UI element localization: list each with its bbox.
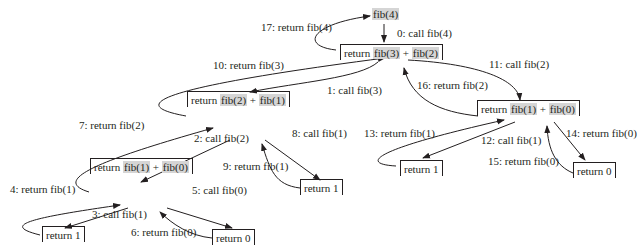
node-fib2-leaf1: return 1 [42,226,85,242]
node-left-call: fib(1) [123,161,150,173]
node-left-call: fib(1) [510,103,537,115]
root-call: fib(4) [372,8,399,20]
node-left-call: fib(3) [373,47,400,59]
node-fib3-leaf: return 1 [300,179,343,195]
node-prefix: return [94,161,123,173]
step-label-11: 11: call fib(2) [489,58,549,70]
node-prefix: return [344,47,373,59]
step-label-16: 16: return fib(2) [417,79,488,91]
step-label-10: 10: return fib(3) [213,59,284,71]
node-prefix: return [191,94,220,106]
node-right-call: fib(2) [412,47,439,59]
node-prefix: return [481,103,510,115]
node-op: + [247,94,259,106]
leaf-text: return 1 [46,229,81,241]
step-label-9: 9: return fib(1) [223,160,288,172]
step-label-8: 8: call fib(1) [292,127,347,139]
step-label-2: 2: call fib(2) [194,132,249,144]
node-r2-leaf1: return 1 [400,160,443,176]
step-label-3: 3: call fib(1) [92,208,147,220]
node-right-call: fib(1) [259,94,286,106]
node-op: + [150,161,162,173]
node-root: fib(4) [370,8,401,21]
step-label-15: 15: return fib(0) [488,155,559,167]
step-label-7: 7: return fib(2) [79,119,144,131]
step-label-12: 12: call fib(1) [481,134,541,146]
node-op: + [400,47,412,59]
node-fib2-left: return fib(1) + fib(0) [90,158,193,174]
node-fib3: return fib(2) + fib(1) [187,91,290,107]
node-r2-leaf0: return 0 [573,162,616,178]
step-label-17: 17: return fib(4) [261,21,332,33]
node-right-call: fib(0) [549,103,576,115]
fib-recursion-diagram: fib(4) return fib(3) + fib(2) return fib… [0,0,637,251]
leaf-text: return 1 [304,182,339,194]
step-label-4: 4: return fib(1) [10,183,75,195]
step-label-6: 6: return fib(0) [131,226,196,238]
step-label-0: 0: call fib(4) [397,27,452,39]
node-fib2-leaf0: return 0 [212,229,255,245]
node-fib2-right: return fib(1) + fib(0) [477,100,580,116]
node-op: + [537,103,549,115]
leaf-text: return 1 [404,163,439,175]
node-right-call: fib(0) [162,161,189,173]
leaf-text: return 0 [216,232,251,244]
arrow-step-5 [167,208,232,228]
step-label-5: 5: call fib(0) [192,184,247,196]
arrow-step-16 [404,68,478,116]
step-label-1: 1: call fib(3) [327,84,382,96]
node-left-call: fib(2) [220,94,247,106]
leaf-text: return 0 [577,165,612,177]
node-fib4: return fib(3) + fib(2) [340,44,443,60]
step-label-13: 13: return fib(1) [364,127,435,139]
step-label-14: 14: return fib(0) [566,127,637,139]
